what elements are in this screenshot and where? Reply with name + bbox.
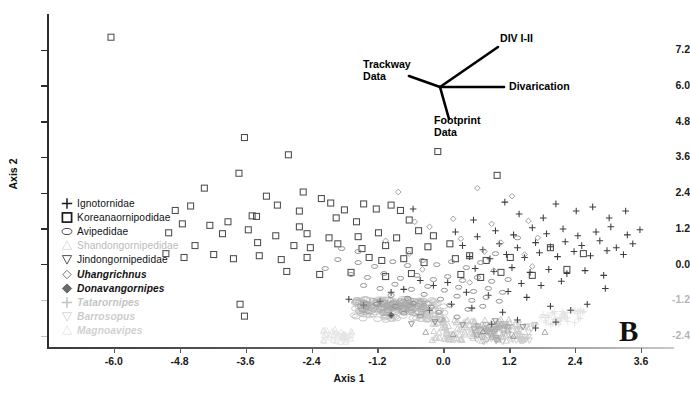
- legend-item[interactable]: Donavangornipes: [56, 281, 216, 295]
- dense-cluster: [352, 296, 432, 315]
- legend-item[interactable]: Magnoavipes: [56, 324, 216, 338]
- dense-cluster: [429, 316, 512, 343]
- legend-item-label: Uhangrichnus: [77, 269, 147, 280]
- dense-cluster: [350, 298, 448, 323]
- legend-item[interactable]: Barrosopus: [56, 310, 216, 324]
- x-tick-label: -3.6: [225, 355, 267, 367]
- x-tick-mark: [641, 348, 642, 353]
- legend-item-label: Donavangornipes: [77, 283, 165, 294]
- x-tick-label: -6.0: [93, 355, 135, 367]
- x-tick-mark: [575, 348, 576, 353]
- y-tick-label: 7.2: [652, 44, 690, 54]
- x-tick-mark: [443, 348, 444, 353]
- y-tick-mark: [41, 228, 47, 229]
- series-jindongornipedidae: [409, 319, 526, 330]
- x-axis-title: Axis 1: [304, 372, 394, 384]
- legend-item[interactable]: Shandongornipedidae: [56, 239, 216, 253]
- y-axis-line: [47, 14, 49, 348]
- series-donavangornipes: [388, 312, 394, 318]
- dense-cluster: [471, 322, 538, 345]
- x-tick-mark: [377, 348, 378, 353]
- scatter-plot-figure: 7.26.04.83.62.41.20.0-1.2-2.4 -6.0-4.8-3…: [0, 0, 690, 397]
- legend-item[interactable]: Koreanaornipodidae: [56, 210, 216, 224]
- x-tick-mark: [114, 348, 115, 353]
- dense-cluster: [533, 307, 587, 328]
- series-uhangrichnus: [383, 185, 541, 285]
- y-tick-label: 3.6: [652, 151, 690, 161]
- legend-triangle-down-icon: [56, 253, 77, 266]
- series-avipedidae: [322, 236, 521, 319]
- legend-item[interactable]: Uhangrichnus: [56, 267, 216, 281]
- legend-plus-icon: [56, 296, 77, 309]
- legend-item-label: Magnoavipes: [77, 325, 143, 336]
- x-tick-mark: [246, 348, 247, 353]
- legend-plus-icon: [56, 197, 77, 210]
- legend-item[interactable]: Avipedidae: [56, 224, 216, 238]
- x-tick-label: 3.6: [620, 355, 662, 367]
- vector-label-footprint-data: Footprint Data: [434, 114, 480, 139]
- x-tick-mark: [312, 348, 313, 353]
- legend-ellipse-icon: [56, 225, 77, 238]
- y-tick-mark: [41, 50, 47, 51]
- x-tick-label: 1.2: [488, 355, 530, 367]
- y-tick-label: 6.0: [652, 80, 690, 90]
- x-tick-label: -2.4: [291, 355, 333, 367]
- legend-item-label: Avipedidae: [77, 226, 128, 237]
- legend-item-label: Jindongornipedidae: [77, 254, 168, 265]
- legend-triangle-up-icon: [56, 239, 77, 252]
- y-tick-mark: [41, 264, 47, 265]
- legend-item-label: Shandongornipedidae: [77, 240, 179, 251]
- legend-item[interactable]: Jindongornipedidae: [56, 253, 216, 267]
- vector-label-trackway-data: Trackway Data: [363, 58, 411, 83]
- x-tick-label: 2.4: [554, 355, 596, 367]
- x-tick-label: -4.8: [159, 355, 201, 367]
- x-tick-label: -1.2: [356, 355, 398, 367]
- x-tick-mark: [180, 348, 181, 353]
- vector-label-div: DIV I-II: [500, 32, 533, 44]
- y-tick-mark: [41, 336, 47, 337]
- legend-item[interactable]: Tatarornipes: [56, 295, 216, 309]
- y-axis-title: Axis 2: [7, 144, 19, 204]
- legend-item-label: Barrosopus: [77, 311, 135, 322]
- legend: IgnotornidaeKoreanaornipodidaeAvipedidae…: [56, 196, 216, 338]
- legend-square-icon: [56, 211, 77, 224]
- vector-label-divarication: Divarication: [509, 80, 570, 92]
- dense-cluster: [320, 326, 355, 344]
- legend-item-label: Tatarornipes: [77, 297, 140, 308]
- y-tick-label: -2.4: [652, 330, 690, 340]
- y-tick-mark: [41, 157, 47, 158]
- x-axis-line: [47, 347, 674, 348]
- series-ignotornidae: [346, 199, 644, 332]
- legend-item-label: Ignotornidae: [77, 198, 135, 209]
- legend-diamond-filled-icon: [56, 282, 77, 295]
- y-tick-label: 1.2: [652, 223, 690, 233]
- y-tick-mark: [41, 85, 47, 86]
- panel-label: B: [619, 315, 638, 348]
- legend-item[interactable]: Ignotornidae: [56, 196, 216, 210]
- y-tick-mark: [41, 300, 47, 301]
- x-tick-label: 0.0: [422, 355, 464, 367]
- legend-item-label: Koreanaornipodidae: [77, 212, 171, 223]
- y-tick-label: -1.2: [652, 294, 690, 304]
- legend-triangle-up-icon: [56, 324, 77, 337]
- y-tick-mark: [41, 121, 47, 122]
- y-tick-label: 0.0: [652, 259, 690, 269]
- y-tick-label: 2.4: [652, 187, 690, 197]
- x-tick-mark: [509, 348, 510, 353]
- y-tick-label: 4.8: [652, 116, 690, 126]
- y-tick-mark: [41, 193, 47, 194]
- vector-overlay-diagram: DIV I-II Divarication Trackway Data Foot…: [370, 24, 600, 144]
- legend-triangle-down-icon: [56, 310, 77, 323]
- legend-diamond-outline-icon: [56, 268, 77, 281]
- series-shandongornipedidae: [423, 328, 548, 338]
